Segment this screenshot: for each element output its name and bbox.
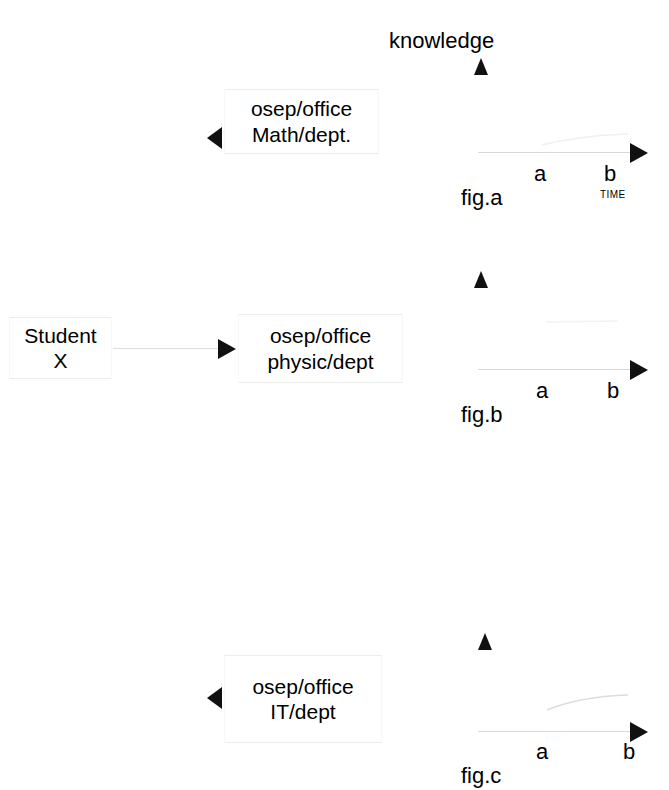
dept-box-it[interactable]: osep/office IT/dept [224,655,382,743]
fig-b-stray-mark [545,316,620,326]
fig-b-caption: fig.b [461,404,503,426]
fig-a-stray-mark [540,132,630,148]
dept-box-math[interactable]: osep/office Math/dept. [224,89,379,154]
fig-c-tick-b: b [623,741,635,763]
fig-a-y-axis-arrow-icon [474,58,488,75]
fig-a-tick-a: a [534,163,546,185]
fig-c-caption: fig.c [461,765,501,787]
fig-b-x-axis-line [478,369,633,370]
fig-a-x-axis-line [478,152,633,153]
source-box-student[interactable]: Student X [9,317,112,379]
fig-b-tick-b: b [607,380,619,402]
fig-c-x-axis-line [478,731,633,732]
arrow-student-to-physics-icon [218,339,236,359]
source-box-student-line2: X [53,348,67,373]
fig-a-x-axis-label: TIME [600,190,626,200]
source-box-student-line1: Student [24,323,96,348]
dept-box-it-line1: osep/office [252,674,353,699]
dept-box-math-line1: osep/office [251,96,352,121]
connector-student-to-physics-line [113,348,220,349]
knowledge-axis-label: knowledge [389,30,494,52]
dept-box-physics-line1: osep/office [270,323,371,348]
dept-box-it-line2: IT/dept [270,699,335,724]
diagram-canvas: knowledge osep/office Math/dept. a b TIM… [0,0,669,790]
fig-c-tick-a: a [536,741,548,763]
fig-c-stray-curve [545,692,630,712]
arrow-math-to-student-icon [207,127,222,149]
dept-box-physics-line2: physic/dept [267,349,373,374]
dept-box-math-line2: Math/dept. [252,122,351,147]
arrow-it-to-student-icon [207,687,222,709]
fig-b-tick-a: a [536,380,548,402]
fig-c-y-axis-arrow-icon [478,633,492,650]
dept-box-physics[interactable]: osep/office physic/dept [238,314,403,383]
fig-b-y-axis-arrow-icon [474,271,488,288]
fig-a-caption: fig.a [461,187,503,209]
fig-b-x-axis-arrow-icon [630,360,648,380]
fig-a-x-axis-arrow-icon [630,143,648,163]
fig-a-tick-b: b [604,163,616,185]
